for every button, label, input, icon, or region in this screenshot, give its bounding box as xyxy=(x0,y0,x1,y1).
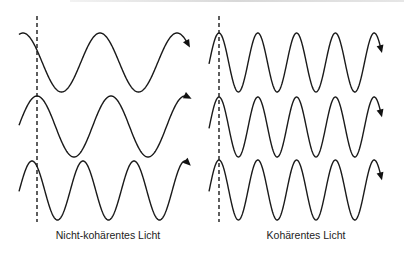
arrowhead-icon xyxy=(183,158,191,166)
light-wave-3 xyxy=(209,160,381,220)
arrowhead-icon xyxy=(377,109,384,118)
arrowhead-icon xyxy=(377,44,384,53)
wave-diagram xyxy=(0,0,404,254)
light-wave-2 xyxy=(19,96,188,157)
light-wave-3 xyxy=(19,161,188,220)
light-wave-1 xyxy=(19,33,188,92)
arrowhead-icon xyxy=(377,172,384,181)
non-coherent-light-label: Nicht-kohärentes Licht xyxy=(56,229,160,241)
light-wave-1 xyxy=(209,33,381,92)
non-coherent-light-panel xyxy=(19,16,192,222)
light-wave-2 xyxy=(209,97,381,157)
coherent-light-label: Kohärentes Licht xyxy=(267,229,346,241)
coherent-light-panel xyxy=(209,16,383,222)
